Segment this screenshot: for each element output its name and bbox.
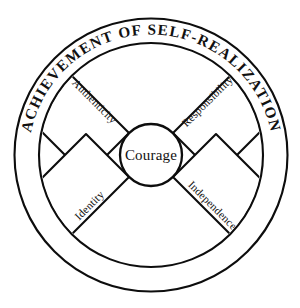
hub-label: Courage xyxy=(125,147,177,163)
self-realization-wheel-diagram: ACHIEVEMENT OF SELF-REALIZATION Authenti… xyxy=(0,0,300,308)
